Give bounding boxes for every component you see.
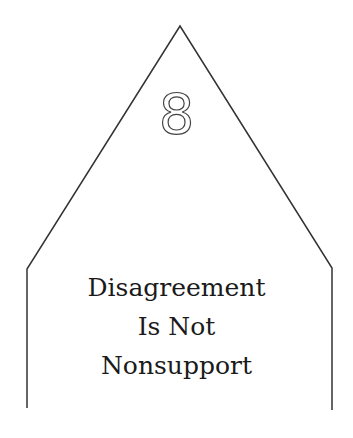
title-line-3: Nonsupport — [0, 346, 353, 385]
title-line-1: Disagreement — [0, 268, 353, 307]
title-line-2: Is Not — [0, 307, 353, 346]
card-title: Disagreement Is Not Nonsupport — [0, 268, 353, 385]
chapter-number: 8 — [0, 84, 353, 144]
